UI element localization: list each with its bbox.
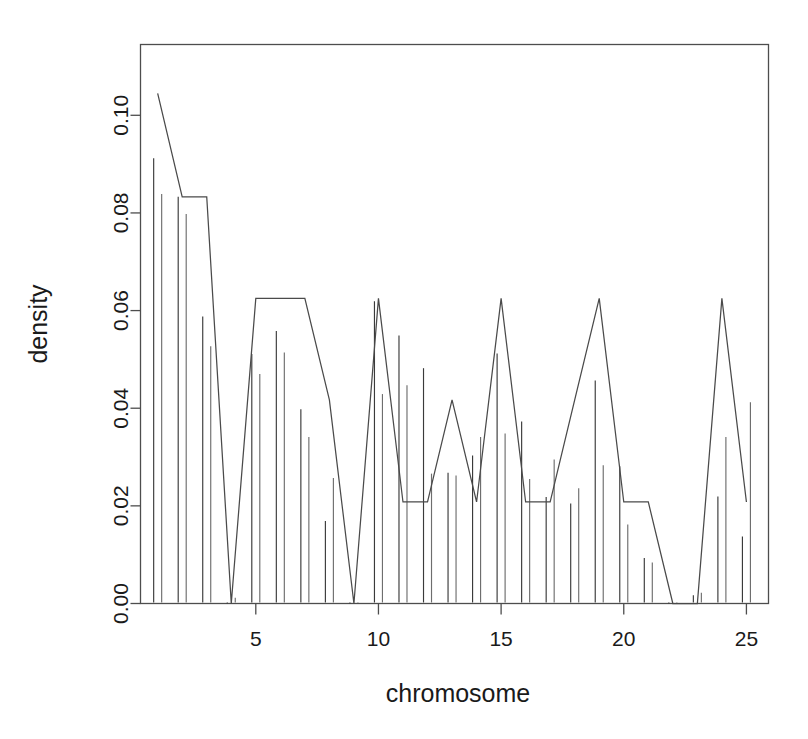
needle-series-left (154, 158, 743, 603)
x-axis-ticks (256, 604, 747, 615)
y-tick-label: 0.00 (109, 583, 132, 624)
x-tick-label: 10 (367, 627, 390, 650)
trend-polyline (158, 93, 747, 603)
x-tick-labels: 510152025 (250, 627, 758, 650)
y-tick-label: 0.06 (109, 290, 132, 331)
y-tick-label: 0.08 (109, 192, 132, 233)
chart-canvas: 0.000.020.040.060.080.10 510152025 densi… (0, 0, 808, 739)
y-tick-labels: 0.000.020.040.060.080.10 (109, 95, 132, 624)
x-tick-label: 15 (489, 627, 512, 650)
y-axis-title: density (24, 284, 52, 364)
x-tick-label: 25 (735, 627, 758, 650)
y-tick-label: 0.02 (109, 485, 132, 526)
y-tick-label: 0.10 (109, 95, 132, 136)
x-tick-label: 5 (250, 627, 262, 650)
y-axis-ticks (131, 115, 141, 603)
x-axis-title: chromosome (386, 679, 531, 707)
plot-frame (141, 45, 769, 604)
y-tick-label: 0.04 (109, 387, 132, 428)
chart-figure: 0.000.020.040.060.080.10 510152025 densi… (0, 0, 808, 739)
x-tick-label: 20 (612, 627, 635, 650)
needle-series-right (162, 194, 751, 604)
